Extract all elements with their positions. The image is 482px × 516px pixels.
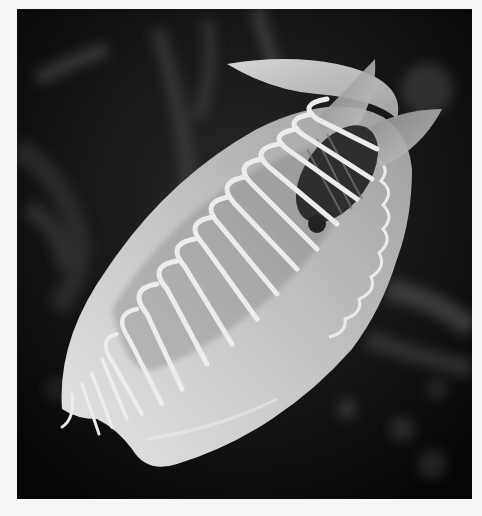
photo-illustration — [17, 9, 472, 499]
venus-flytrap-photo — [17, 9, 472, 499]
photo-matte — [0, 0, 482, 516]
